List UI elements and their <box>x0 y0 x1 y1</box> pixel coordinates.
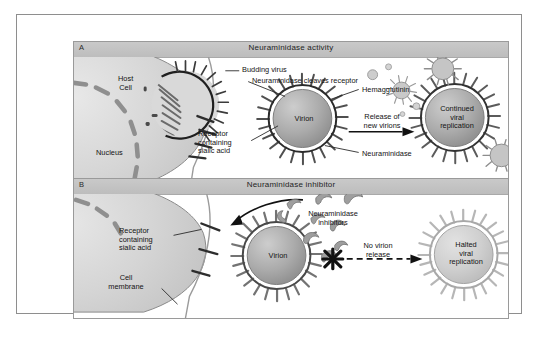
block-x-icon <box>323 249 343 269</box>
released-virion-4 <box>386 64 392 70</box>
panel-b-header: B Neuraminidase inhibitor <box>74 179 508 195</box>
figure-root: A Neuraminidase activity <box>0 0 548 338</box>
label-receptor-sialic-acid-b: Receptor containing sialic acid <box>119 227 153 253</box>
label-neuraminidase-cleaves-receptor: Neuraminidase cleaves receptor <box>252 77 358 86</box>
released-virion-3 <box>368 70 378 80</box>
label-continued-viral-replication: Continued viral replication <box>432 105 482 131</box>
label-virion-a: Virion <box>284 115 324 124</box>
released-virion-1 <box>424 57 461 85</box>
panel-a-title: Neuraminidase activity <box>74 43 508 52</box>
released-virion-7 <box>483 140 508 171</box>
label-nucleus: Nucleus <box>96 149 123 158</box>
label-hemagglutinin: Hemagglutinin <box>362 86 409 95</box>
label-receptor-sialic-acid-a: Receptor containing sialic acid <box>198 130 232 156</box>
label-cell-membrane: Cell membrane <box>100 274 152 291</box>
label-neuraminidase-inhibitors: Neuraminidase inhibitors <box>302 210 364 227</box>
panel-b-title: Neuraminidase inhibitor <box>74 180 508 189</box>
released-virion-5 <box>413 103 420 110</box>
panel-b: B Neuraminidase inhibitor <box>73 178 509 319</box>
label-release-of-new-virions: Release of new virions <box>355 113 409 130</box>
figure-frame: A Neuraminidase activity <box>16 14 522 314</box>
panel-a-header: A Neuraminidase activity <box>74 42 508 58</box>
panel-b-body: Receptor containing sialic acid Cell mem… <box>74 194 508 318</box>
host-cell-shape-b <box>74 194 206 312</box>
label-virion-b: Virion <box>258 252 298 261</box>
panel-a-body: Host Cell Nucleus Receptor containing si… <box>74 57 508 180</box>
label-no-virion-release: No virion release <box>357 242 399 259</box>
label-budding-virus: Budding virus <box>242 66 287 75</box>
label-neuraminidase: Neuraminidase <box>362 150 412 159</box>
label-halted-viral-replication: Halted viral replication <box>441 241 491 267</box>
label-host-cell: Host Cell <box>118 75 133 92</box>
panel-a: A Neuraminidase activity <box>73 41 509 181</box>
